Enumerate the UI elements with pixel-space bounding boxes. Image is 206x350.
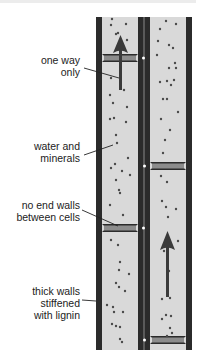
xylem-vessel-diagram	[0, 0, 206, 350]
right-vessel-outer-wall	[186, 17, 192, 350]
left-vessel-inner-wall	[138, 17, 143, 350]
label-no-end-walls: no end walls between cells	[16, 199, 80, 223]
right-vessel-lumen	[150, 17, 186, 350]
label-water-and-minerals: water and minerals	[34, 140, 80, 164]
left-vessel-outer-wall	[96, 17, 102, 350]
label-thick-walls-lignin: thick walls stiffened with lignin	[32, 285, 80, 321]
right-vessel-inner-wall	[145, 17, 150, 350]
middle-lamella	[143, 17, 145, 350]
leader-thick-walls	[82, 300, 96, 301]
label-one-way-only: one way only	[41, 54, 80, 78]
